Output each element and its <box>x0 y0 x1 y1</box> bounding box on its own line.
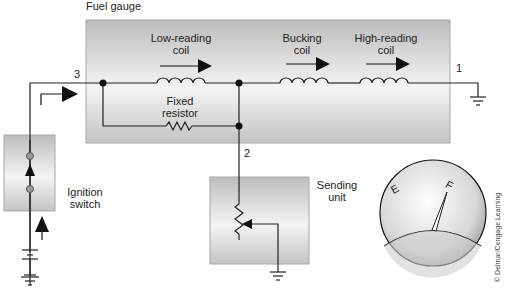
switch-contact-icon <box>27 186 34 193</box>
terminal-3: 3 <box>74 68 80 80</box>
terminal-2: 2 <box>244 147 250 159</box>
title-fuel-gauge: Fuel gauge <box>86 0 141 12</box>
fuel-gauge-dial <box>380 160 486 278</box>
label-fixed-resistor: Fixed resistor <box>152 95 208 119</box>
current-arrow-supply <box>41 94 62 105</box>
credit-text: © Delmar/Cengage Learning <box>494 193 501 282</box>
label-ignition-switch: Ignition switch <box>62 186 108 210</box>
junction-node <box>100 80 107 87</box>
junction-node <box>236 123 243 130</box>
fuel-gauge-circuit-diagram <box>0 0 506 291</box>
label-low-reading-coil: Low-reading coil <box>140 32 222 56</box>
sending-unit-housing <box>210 177 309 264</box>
label-bucking-coil: Bucking coil <box>272 32 332 56</box>
switch-contact-icon <box>27 153 34 160</box>
label-sending-unit: Sending unit <box>312 179 362 203</box>
label-high-reading-coil: High-reading coil <box>350 32 422 56</box>
terminal-1: 1 <box>456 62 462 74</box>
junction-node <box>236 80 243 87</box>
